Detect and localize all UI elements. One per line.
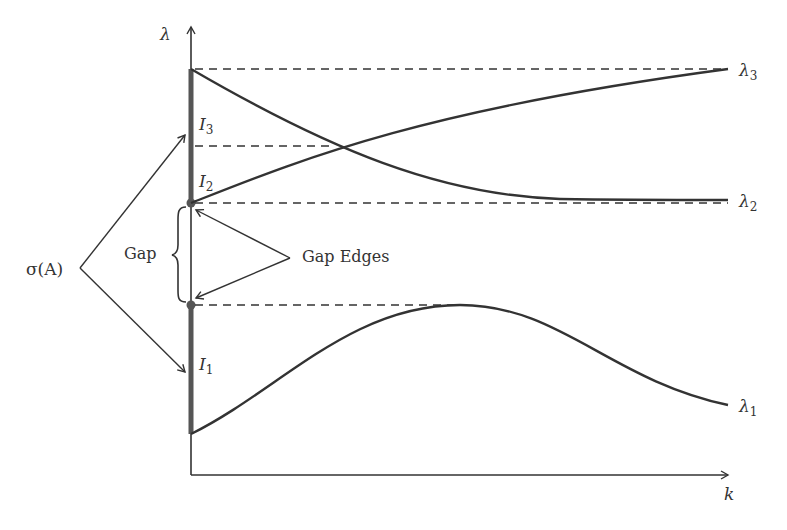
eigenvalue-curves (191, 69, 728, 434)
sigma-arrow-down (80, 268, 185, 372)
interval-I1-label: I1 (198, 354, 213, 377)
gap-edge-arrows (196, 210, 290, 298)
lambda-3-label: λ3 (738, 60, 757, 83)
lambda-1-label: λ1 (738, 396, 757, 419)
axes (191, 27, 728, 475)
gap-edges-label: Gap Edges (302, 247, 390, 266)
labels: λ k I3 I2 I1 λ3 λ2 λ1 σ(A) Gap Gap Edges (26, 24, 757, 504)
curve-lambda-3 (191, 69, 728, 203)
band-diagram: λ k I3 I2 I1 λ3 λ2 λ1 σ(A) Gap Gap Edges (0, 0, 787, 530)
gap-edge-arrow-upper (196, 210, 290, 258)
curve-lambda-1 (191, 305, 728, 434)
interval-I3-label: I3 (198, 114, 213, 137)
sigma-label: σ(A) (26, 259, 63, 279)
interval-I2-label: I2 (198, 171, 213, 194)
x-axis-label: k (724, 484, 734, 504)
gap-label: Gap (124, 244, 157, 263)
lambda-2-label: λ2 (738, 191, 757, 214)
gap-edge-lower-dot (187, 301, 196, 310)
gap-edge-arrow-lower (196, 258, 290, 298)
y-axis-label: λ (159, 24, 171, 44)
curve-lambda-2 (191, 69, 728, 200)
gap-brace (172, 207, 186, 302)
